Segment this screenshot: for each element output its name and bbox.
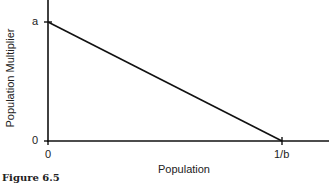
x-tick-label-0: 0 xyxy=(45,149,51,160)
chart: Population Multiplier a 0 0 1/b Populati… xyxy=(0,0,334,188)
figure-caption: Figure 6.5 xyxy=(2,172,60,183)
y-tick-label-0: 0 xyxy=(32,135,38,146)
x-axis-title: Population xyxy=(158,163,210,175)
y-axis-title-text: Population Multiplier xyxy=(4,28,16,127)
x-tick-label-1b: 1/b xyxy=(274,149,289,160)
y-tick-label-a: a xyxy=(32,16,38,27)
multiplier-line xyxy=(48,22,282,141)
y-axis-title: Population Multiplier xyxy=(2,14,18,142)
